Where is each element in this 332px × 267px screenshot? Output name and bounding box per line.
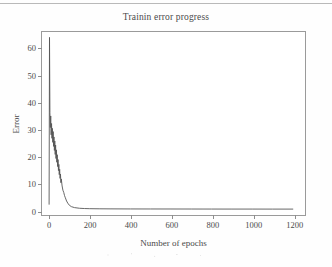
y-tick-mark	[38, 103, 42, 104]
x-tick-label: 1200	[286, 220, 303, 230]
y-axis-title: Error	[7, 31, 23, 216]
x-tick-label: 200	[84, 220, 97, 230]
error-curve	[49, 37, 293, 209]
y-tick-label: 40	[28, 98, 37, 108]
x-tick-mark	[131, 215, 132, 219]
plot-area: 0102030405060 020040060080010001200	[41, 31, 306, 216]
scan-noise-artifact	[95, 252, 225, 258]
y-tick-label: 50	[28, 71, 37, 81]
x-tick-label: 1000	[245, 220, 262, 230]
y-axis-title-text: Error	[10, 114, 20, 133]
y-tick-label: 30	[28, 125, 37, 135]
y-tick-mark	[38, 130, 42, 131]
y-tick-mark	[38, 76, 42, 77]
y-tick-mark	[38, 48, 42, 49]
x-tick-label: 400	[125, 220, 138, 230]
y-tick-mark	[38, 157, 42, 158]
y-tick-label: 20	[28, 152, 37, 162]
x-tick-mark	[254, 215, 255, 219]
x-tick-mark	[49, 215, 50, 219]
x-tick-label: 0	[47, 220, 51, 230]
x-tick-mark	[172, 215, 173, 219]
x-axis-title: Number of epochs	[41, 238, 306, 248]
y-tick-label: 10	[28, 179, 37, 189]
figure-container: Trainin error progress 0102030405060 020…	[0, 0, 332, 267]
x-tick-label: 600	[166, 220, 179, 230]
y-tick-label: 60	[28, 43, 37, 53]
x-tick-label: 800	[206, 220, 219, 230]
page-divider-rule	[0, 3, 332, 4]
chart-title: Trainin error progress	[0, 12, 332, 22]
x-tick-mark	[213, 215, 214, 219]
y-tick-mark	[38, 184, 42, 185]
y-tick-mark	[38, 212, 42, 213]
x-tick-mark	[295, 215, 296, 219]
line-chart-canvas	[42, 32, 305, 215]
y-tick-label: 0	[32, 207, 36, 217]
x-tick-mark	[90, 215, 91, 219]
